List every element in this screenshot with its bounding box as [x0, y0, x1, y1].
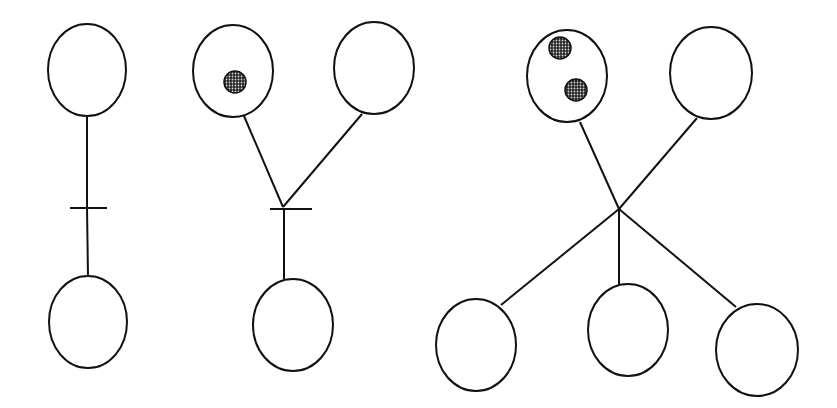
net-2: [193, 22, 414, 371]
token-icon: [549, 37, 571, 59]
place-p5: [716, 304, 798, 396]
net-3: [436, 27, 798, 396]
place-p4: [588, 284, 668, 376]
petri-net-diagram: [0, 0, 837, 408]
arc: [501, 209, 619, 305]
arc: [87, 208, 88, 276]
place-p2: [670, 27, 752, 119]
token-icon: [224, 71, 246, 93]
place-p2: [334, 22, 414, 114]
arc: [619, 118, 697, 209]
place-p2: [49, 276, 127, 368]
token-icon: [565, 79, 587, 101]
net-1: [48, 24, 127, 368]
place-p1: [48, 24, 126, 116]
arc: [580, 122, 619, 209]
place-p3: [436, 299, 516, 391]
arc: [283, 114, 362, 207]
place-p3: [253, 279, 333, 371]
arc: [244, 116, 283, 207]
